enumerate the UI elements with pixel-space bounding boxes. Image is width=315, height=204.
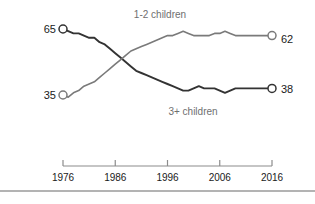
x-tick-label-2006: 2006 — [209, 172, 232, 183]
series-annotation-upper: 1-2 children — [134, 9, 186, 20]
x-tick-label-1996: 1996 — [156, 172, 179, 183]
marker-3plus-start — [59, 25, 67, 33]
chart-container: 65 35 62 38 1-2 children 3+ children 197… — [0, 0, 315, 204]
x-tick-label-1986: 1986 — [104, 172, 127, 183]
value-label-bottom-left: 35 — [44, 89, 56, 101]
marker-1-2-start — [59, 91, 67, 99]
value-label-top-left: 65 — [44, 23, 56, 35]
marker-1-2-end — [268, 32, 276, 40]
series-annotation-lower: 3+ children — [168, 106, 217, 117]
value-label-bottom-right: 38 — [281, 83, 293, 95]
x-tick-label-2016: 2016 — [261, 172, 284, 183]
value-label-top-right: 62 — [281, 33, 293, 45]
line-chart: 65 35 62 38 1-2 children 3+ children 197… — [0, 0, 315, 204]
x-tick-label-1976: 1976 — [52, 172, 75, 183]
marker-3plus-end — [268, 84, 276, 92]
